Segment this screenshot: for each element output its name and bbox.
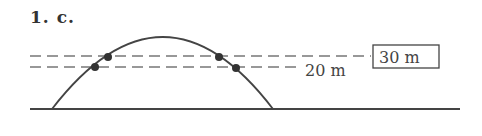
intersection-point [232, 64, 240, 72]
trajectory-diagram: 30 m 20 m [0, 0, 482, 136]
trajectory-parabola [52, 37, 273, 109]
height-label-20m: 20 m [305, 61, 346, 80]
intersection-point [91, 63, 99, 71]
intersection-point [104, 53, 112, 61]
diagram-root: 1. c. 30 m 20 m [0, 0, 482, 136]
intersection-point [215, 53, 223, 61]
height-label-30m: 30 m [379, 48, 420, 67]
